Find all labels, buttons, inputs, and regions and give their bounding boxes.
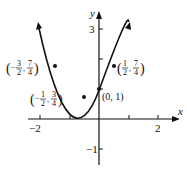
svg-text:): ): [58, 92, 63, 108]
svg-text:2: 2: [41, 99, 45, 108]
parabola-graph: y x −2 2 3 −1 (0, 1) ( −32 ,74 ) ( −12 ,…: [0, 0, 187, 172]
svg-text:3: 3: [52, 90, 56, 99]
svg-text:3: 3: [17, 59, 21, 68]
point-half: [112, 64, 116, 68]
svg-text:): ): [140, 61, 145, 77]
y-arrow-icon: [96, 11, 102, 19]
point-label-vertex: ( −12 ,34 ): [30, 90, 63, 108]
svg-text:1: 1: [123, 59, 127, 68]
svg-text:−: −: [35, 94, 40, 103]
y-axis-label: y: [89, 7, 95, 19]
point-label-half: ( 12 ,74 ): [117, 59, 145, 77]
svg-text:4: 4: [52, 99, 56, 108]
point-label-neg3half: ( −32 ,74 ): [6, 59, 39, 77]
point-0-1: [97, 87, 101, 91]
point-vertex: [82, 95, 86, 99]
point-neg3half: [53, 64, 57, 68]
svg-text:4: 4: [134, 68, 138, 77]
tick-label-2: 2: [155, 122, 161, 134]
svg-text:,: ,: [129, 64, 131, 73]
svg-text:,: ,: [23, 64, 25, 73]
tick-label-neg1: −1: [86, 143, 98, 155]
svg-text:2: 2: [123, 68, 127, 77]
x-axis-label: x: [177, 105, 183, 117]
point-label-0-1: (0, 1): [102, 91, 124, 103]
svg-text:1: 1: [41, 90, 45, 99]
svg-text:−: −: [11, 63, 16, 72]
svg-text:): ): [34, 61, 39, 77]
svg-text:,: ,: [47, 95, 49, 104]
tick-label-neg2: −2: [29, 122, 41, 134]
svg-text:4: 4: [28, 68, 32, 77]
tick-label-3: 3: [89, 23, 95, 35]
svg-text:(: (: [117, 61, 122, 77]
svg-text:7: 7: [134, 59, 138, 68]
svg-text:7: 7: [28, 59, 32, 68]
svg-text:2: 2: [17, 68, 21, 77]
graph-svg: y x −2 2 3 −1 (0, 1) ( −32 ,74 ) ( −12 ,…: [0, 0, 187, 172]
curve-arrow-left-icon: [36, 22, 42, 30]
